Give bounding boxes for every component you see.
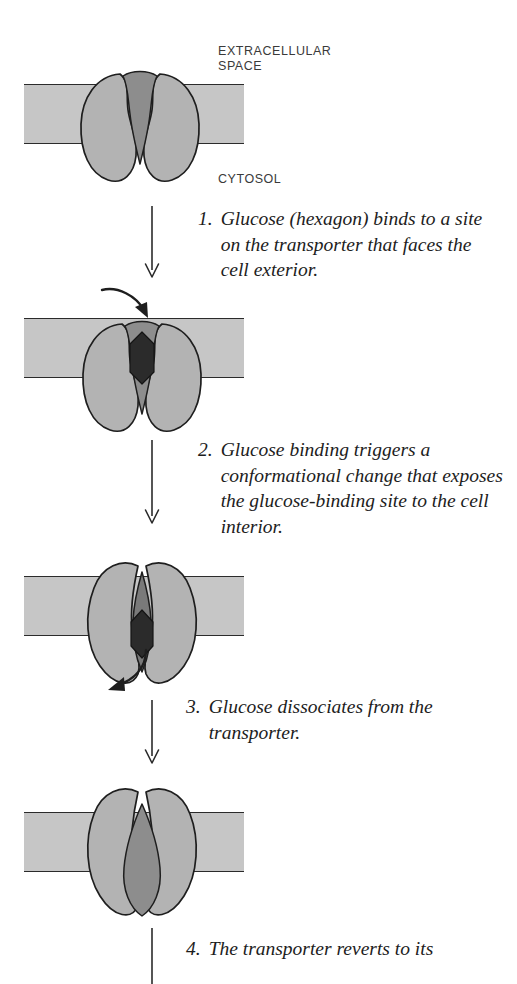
panel-step-3: [0, 540, 517, 700]
caption-number-4: 4.: [186, 936, 201, 962]
downward-step-arrow-3: [140, 700, 164, 766]
diagram-canvas: EXTRACELLULAR SPACE CYTOSOL 1. Glucose (…: [0, 0, 517, 984]
caption-step-1: 1. Glucose (hexagon) binds to a site on …: [198, 206, 498, 283]
caption-text-1: Glucose (hexagon) binds to a site on the…: [221, 206, 498, 283]
downward-step-arrow-4: [140, 928, 164, 984]
panel-step-4: [0, 770, 517, 930]
downward-step-arrow-2: [140, 440, 164, 526]
panel-step-1: EXTRACELLULAR SPACE CYTOSOL: [0, 0, 517, 200]
panel-step-2: [0, 290, 517, 440]
caption-text-3: Glucose dissociates from the transporter…: [209, 694, 496, 745]
extracellular-space-label: EXTRACELLULAR SPACE: [218, 44, 331, 74]
caption-number-3: 3.: [186, 694, 201, 745]
transporter-inward-open-empty: [24, 770, 254, 930]
curved-arrow-glucose-entering: [96, 280, 172, 336]
caption-step-2: 2. Glucose binding triggers a conformati…: [198, 437, 503, 539]
caption-step-4: 4. The transporter reverts to its: [186, 936, 506, 962]
cytosol-label: CYTOSOL: [218, 172, 281, 187]
caption-text-2: Glucose binding triggers a conformationa…: [221, 437, 503, 539]
caption-number-2: 2.: [198, 437, 213, 539]
curved-arrow-glucose-exiting: [88, 646, 168, 706]
caption-text-4: The transporter reverts to its: [209, 936, 506, 962]
caption-step-3: 3. Glucose dissociates from the transpor…: [186, 694, 496, 745]
downward-step-arrow-1: [140, 206, 164, 280]
caption-number-1: 1.: [198, 206, 213, 283]
